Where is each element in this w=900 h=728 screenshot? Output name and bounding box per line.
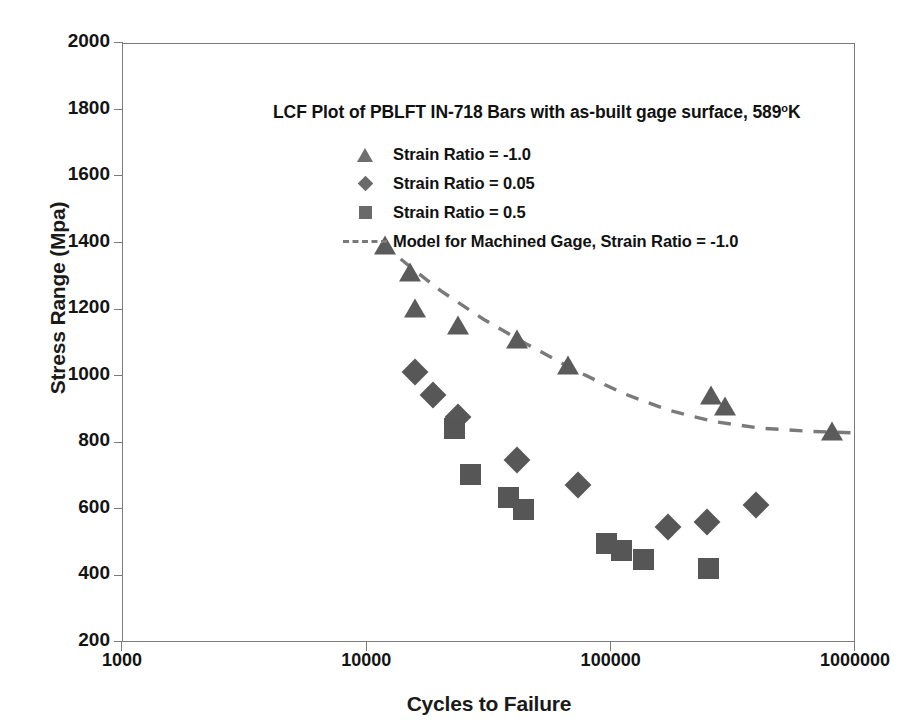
plot-area: LCF Plot of PBLFT IN-718 Bars with as-bu… [122, 43, 855, 642]
x-axis-title: Cycles to Failure [122, 692, 856, 716]
legend-label: Strain Ratio = -1.0 [393, 145, 531, 164]
y-tick-label: 1400 [10, 230, 110, 252]
data-point-square [444, 418, 465, 439]
y-tick-label: 200 [10, 629, 110, 651]
model-for-machined-gage-line [382, 244, 850, 433]
model-line-svg [123, 44, 856, 643]
data-point-triangle [404, 299, 426, 318]
legend-label: Strain Ratio = 0.5 [393, 203, 526, 222]
y-tick-label: 2000 [10, 30, 110, 52]
data-point-triangle [821, 422, 843, 441]
legend-item-1: Strain Ratio = 0.05 [337, 169, 897, 198]
legend-key-wrap [337, 148, 393, 162]
y-tick-label: 1000 [10, 363, 110, 385]
data-point-square [513, 499, 534, 520]
legend-item-3: Model for Machined Gage, Strain Ratio = … [337, 227, 897, 256]
lcf-scatter-chart: Stress Range (Mpa) Cycles to Failure 200… [0, 0, 900, 728]
dashed-line-icon [343, 240, 387, 243]
legend-key-wrap [337, 240, 393, 243]
x-tick-label: 10000 [341, 650, 391, 671]
y-tick-label: 1200 [10, 296, 110, 318]
data-point-triangle [447, 315, 469, 334]
data-point-square [460, 464, 481, 485]
chart-title: LCF Plot of PBLFT IN-718 Bars with as-bu… [273, 102, 800, 123]
y-tick-label: 600 [10, 496, 110, 518]
data-point-square [611, 540, 632, 561]
chart-legend: Strain Ratio = -1.0Strain Ratio = 0.05St… [337, 140, 897, 256]
legend-item-2: Strain Ratio = 0.5 [337, 198, 897, 227]
square-marker-icon [359, 206, 372, 219]
y-tick-label: 1600 [10, 163, 110, 185]
y-tick-label: 400 [10, 562, 110, 584]
data-point-triangle [714, 397, 736, 416]
data-point-triangle [399, 262, 421, 281]
diamond-marker-icon [357, 176, 373, 192]
legend-key-wrap [337, 178, 393, 189]
x-tick-label: 1000000 [820, 650, 890, 671]
legend-item-0: Strain Ratio = -1.0 [337, 140, 897, 169]
legend-label: Model for Machined Gage, Strain Ratio = … [393, 232, 738, 251]
x-tick-label: 100000 [581, 650, 641, 671]
legend-key-wrap [337, 206, 393, 219]
degree-symbol: o [781, 102, 788, 114]
x-tick-label: 1000 [102, 650, 142, 671]
y-tick-label: 1800 [10, 97, 110, 119]
data-point-square [698, 558, 719, 579]
y-tick-label: 800 [10, 429, 110, 451]
data-point-triangle [506, 329, 528, 348]
legend-label: Strain Ratio = 0.05 [393, 174, 535, 193]
data-point-triangle [557, 355, 579, 374]
triangle-marker-icon [357, 148, 373, 162]
data-point-square [633, 549, 654, 570]
